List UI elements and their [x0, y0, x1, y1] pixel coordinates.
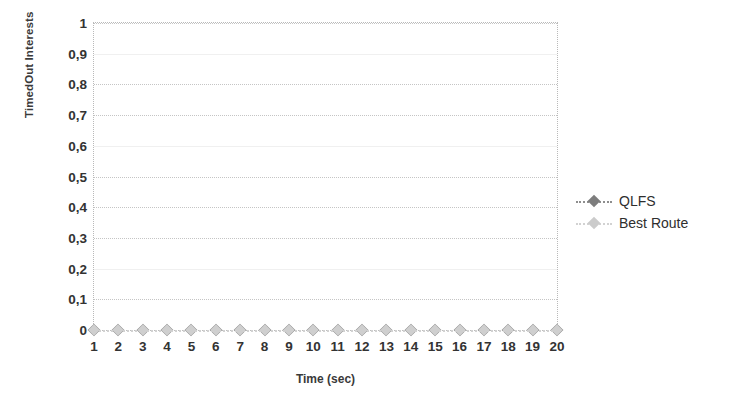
gridline: [94, 146, 557, 147]
x-axis-tick-label: 11: [331, 339, 345, 354]
x-axis-tick-label: 15: [428, 339, 443, 354]
legend-item-qlfs[interactable]: QLFS: [576, 190, 726, 212]
y-axis-tick-label: 0,7: [68, 108, 87, 123]
x-axis-tick-label: 1: [90, 339, 98, 354]
y-axis-tick-label: 0,6: [68, 138, 87, 153]
x-axis-tick-label: 7: [236, 339, 244, 354]
chart-legend: QLFS Best Route: [576, 190, 726, 234]
x-axis-tick-label: 6: [212, 339, 220, 354]
x-axis-tick-label: 14: [403, 339, 418, 354]
x-axis-tick-label: 5: [188, 339, 196, 354]
y-axis-tick-label: 0,3: [68, 230, 87, 245]
gridline: [94, 299, 557, 300]
x-axis-tick-label: 18: [501, 339, 516, 354]
x-axis-tick-label: 8: [261, 339, 269, 354]
y-axis-tick-label: 1: [79, 16, 87, 31]
x-axis-tick-label: 4: [163, 339, 171, 354]
legend-marker-best-route: [576, 217, 612, 229]
y-axis-tick-label: 0,5: [68, 169, 87, 184]
y-axis-tick-label: 0,9: [68, 46, 87, 61]
data-point-marker: [454, 324, 465, 335]
gridline: [94, 177, 557, 178]
x-axis-tick-label: 9: [285, 339, 293, 354]
data-point-marker: [381, 324, 392, 335]
y-axis-tick-label: 0: [79, 323, 87, 338]
x-axis-tick-label: 10: [306, 339, 321, 354]
y-axis-tick-label: 0,2: [68, 261, 87, 276]
x-axis-tick-label: 16: [452, 339, 467, 354]
chart-container: TimedOut Interests 10,90,80,70,60,50,40,…: [0, 0, 733, 416]
data-point-marker: [308, 324, 319, 335]
gridline: [94, 238, 557, 239]
legend-item-best-route[interactable]: Best Route: [576, 212, 726, 234]
gridline: [94, 23, 557, 24]
x-axis-tick-label: 17: [476, 339, 491, 354]
gridline: [94, 207, 557, 208]
y-axis-title: TimedOut Interests: [23, 0, 35, 118]
y-axis-tick-label: 0,1: [68, 292, 87, 307]
data-point-marker: [186, 324, 197, 335]
x-axis-tick-label: 3: [139, 339, 147, 354]
legend-marker-qlfs: [576, 195, 612, 207]
gridline: [94, 84, 557, 85]
x-axis-tick-label: 19: [525, 339, 540, 354]
y-axis-tick-label: 0,4: [68, 200, 87, 215]
x-axis-tick-label: 12: [355, 339, 370, 354]
x-axis-tick-label: 13: [379, 339, 394, 354]
plot-area: 10,90,80,70,60,50,40,30,20,1012345678910…: [93, 22, 558, 330]
data-point-marker: [113, 324, 124, 335]
gridline: [94, 54, 557, 55]
legend-label-qlfs: QLFS: [619, 193, 656, 209]
x-axis-tick-label: 2: [115, 339, 123, 354]
gridline: [94, 269, 557, 270]
y-axis-tick-label: 0,8: [68, 77, 87, 92]
x-axis-tick-label: 20: [549, 339, 564, 354]
x-axis-title: Time (sec): [93, 372, 558, 386]
legend-label-best-route: Best Route: [619, 215, 688, 231]
gridline: [94, 115, 557, 116]
